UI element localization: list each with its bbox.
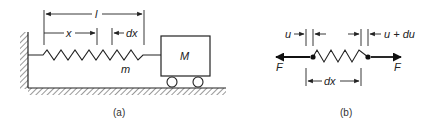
element-spring xyxy=(313,50,368,62)
ground xyxy=(28,88,226,95)
panel-a-caption: (a) xyxy=(113,107,125,118)
left-displacement-dimension: u xyxy=(285,28,326,40)
element-dimension: dx xyxy=(114,27,138,39)
right-force-label: F xyxy=(394,61,402,73)
right-node xyxy=(365,54,370,59)
spring xyxy=(28,50,161,60)
panel-b-caption: (b) xyxy=(340,107,352,118)
position-dimension: x xyxy=(44,27,95,39)
wheel-right xyxy=(193,77,203,87)
position-label: x xyxy=(65,27,72,39)
element-label: dx xyxy=(126,27,138,39)
right-force-arrow: F xyxy=(371,57,402,73)
panel-a: M m l x dx (a) xyxy=(20,8,226,118)
fixed-wall xyxy=(20,32,28,89)
wheel-left xyxy=(167,77,177,87)
left-force-label: F xyxy=(276,61,284,73)
spring-mass-label: m xyxy=(121,63,130,75)
panel-b: u u + du F F dx (b) xyxy=(276,28,415,118)
spring-mass-diagram: M m l x dx (a) xyxy=(0,0,442,123)
left-force-arrow: F xyxy=(276,57,310,73)
element-length-label: dx xyxy=(324,75,336,87)
right-displacement-label: u + du xyxy=(384,28,415,40)
left-displacement-label: u xyxy=(285,28,291,40)
left-node xyxy=(310,54,315,59)
element-length-dimension: dx xyxy=(308,75,359,87)
length-label: l xyxy=(95,8,98,20)
right-displacement-dimension: u + du xyxy=(348,28,415,40)
block-mass-label: M xyxy=(180,50,190,62)
length-dimension: l xyxy=(46,8,142,20)
